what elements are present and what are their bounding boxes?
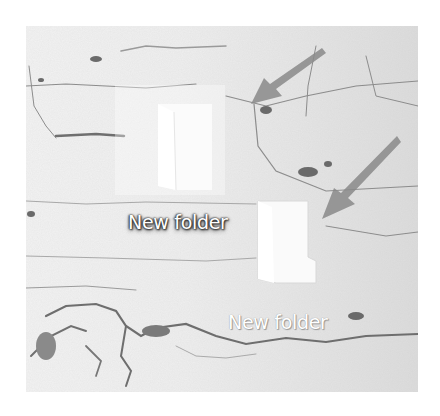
desktop[interactable]: New folder New folder: [26, 26, 418, 392]
folder-label[interactable]: New folder: [228, 310, 328, 334]
arrow-down-left-icon: [26, 26, 418, 392]
folder-label[interactable]: New folder: [128, 210, 228, 234]
